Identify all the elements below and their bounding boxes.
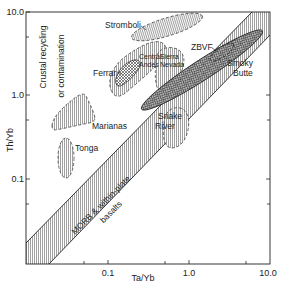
snake-river-label-line1: Snake: [158, 111, 182, 121]
smoky-butte-label-line1: Smoky: [227, 58, 254, 68]
sierra-nevada-label-line1: Sierra: [160, 53, 179, 60]
x-tick-label-10: 10.0: [259, 268, 277, 278]
x-axis-title: Ta/Yb: [131, 273, 154, 283]
y-tick-label-0-1: 0.1: [11, 174, 24, 184]
y-tick-label-10: 10.0: [6, 7, 24, 17]
sierra-nevada-label-line2: Nevada: [160, 61, 184, 68]
crustal-recycling-label-line2: or contamination: [56, 34, 66, 97]
y-axis-title: Th/Yb: [5, 128, 15, 152]
x-axis: [84, 260, 246, 264]
zbvf-label: ZBVF: [191, 42, 213, 52]
tonga-label: Tonga: [75, 143, 98, 153]
central-andes-label-line1: Central: [139, 53, 162, 60]
marianas-label: Marianas: [92, 121, 127, 131]
x-tick-label-0-1: 0.1: [102, 268, 115, 278]
ferrar-label: Ferrar: [93, 68, 116, 78]
central-andes-label-line2: Andes: [139, 61, 159, 68]
smoky-butte-label-line2: Butte: [233, 68, 253, 78]
x-tick-label-1: 1.0: [183, 268, 196, 278]
crustal-recycling-label-line1: Crustal recycling: [38, 25, 48, 88]
th-yb-vs-ta-yb-chart: 10.0 1.0 0.1 0.1 1.0 10.0 Ta/Yb Th/Yb Cr…: [0, 0, 283, 286]
y-tick-label-1: 1.0: [11, 90, 24, 100]
snake-river-label-line2: River: [155, 121, 175, 131]
marianas-field: [52, 94, 95, 130]
tonga-field: [58, 138, 74, 178]
stromboli-label: Stromboli: [105, 20, 141, 30]
